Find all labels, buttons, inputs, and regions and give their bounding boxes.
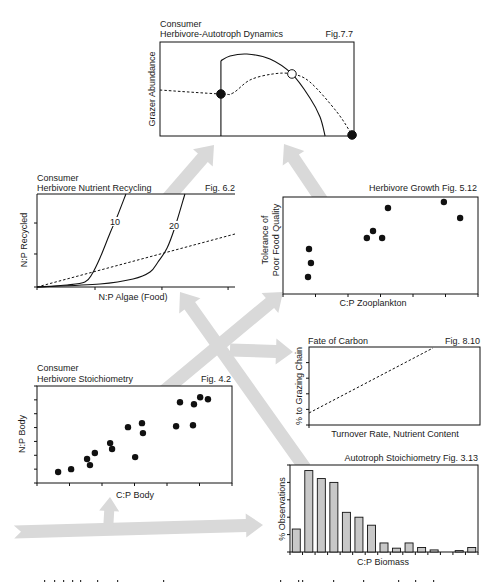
histogram-bar — [330, 482, 338, 552]
histogram-bar — [430, 550, 438, 552]
curve-label-10: 10 — [110, 217, 120, 227]
panel-recycling: Consumer Herbivore Nutrient Recycling Fi… — [19, 173, 235, 302]
panel-recycling-title-line2: Herbivore Nutrient Recycling — [37, 183, 152, 193]
histogram-bar — [468, 547, 476, 552]
panel-recycling-xlabel: N:P Algae (Food) — [99, 292, 168, 302]
panel-recycling-plot-background — [37, 194, 235, 287]
histogram-bar — [418, 547, 426, 552]
panel-carbon: Fate of Carbon Fig. 8.10 % to Grazing Ch… — [294, 336, 480, 439]
arrow-growth-to-dynamics — [283, 144, 329, 206]
panel-dynamics-plot-frame — [160, 42, 354, 136]
data-point — [132, 454, 138, 460]
curve-label-20: 20 — [169, 221, 179, 231]
panel-growth-title: Herbivore Growth Fig. 5.12 — [369, 183, 477, 193]
data-point — [140, 430, 146, 436]
data-point — [177, 399, 183, 405]
data-point — [308, 260, 314, 266]
data-point — [87, 462, 93, 468]
data-point — [370, 228, 376, 234]
data-point — [92, 450, 98, 456]
panel-histogram-xlabel: C:P Biomass — [357, 557, 409, 567]
data-point — [306, 246, 312, 252]
histogram-bar — [393, 548, 401, 552]
panel-stoichiometry-xlabel: C:P Body — [116, 490, 154, 500]
panel-stoichiometry-ylabel: N:P Body — [17, 415, 27, 453]
data-point — [109, 446, 115, 452]
panel-dynamics-title-line2: Herbivore-Autotroph Dynamics — [160, 29, 284, 39]
histogram-bar — [455, 551, 463, 552]
panel-recycling-fig-label: Fig. 6.2 — [205, 183, 235, 193]
histogram-bar — [305, 471, 313, 552]
data-point — [197, 394, 203, 400]
histogram-bar — [292, 529, 300, 552]
panel-growth-ylabel-line2: Poor Food Quality — [271, 203, 281, 276]
data-point — [379, 235, 385, 241]
filled-equilibrium-marker — [348, 131, 357, 140]
histogram-bar — [355, 517, 363, 552]
panel-stoichiometry-plot-frame — [37, 386, 232, 483]
data-point — [125, 424, 131, 430]
panel-carbon-xlabel: Turnover Rate, Nutrient Content — [331, 429, 459, 439]
data-point — [385, 205, 391, 211]
data-point — [457, 215, 463, 221]
data-point — [441, 199, 447, 205]
histogram-bar — [405, 543, 413, 552]
panel-growth-plot-frame — [283, 197, 478, 294]
panel-recycling-title-line1: Consumer — [37, 173, 79, 183]
histogram-bar — [317, 479, 325, 552]
panel-stoichiometry-title-line2: Herbivore Stoichiometry — [37, 374, 134, 384]
data-point — [191, 401, 197, 407]
open-equilibrium-marker — [288, 70, 297, 79]
panel-histogram-title: Autotroph Stoichiometry Fig. 3.13 — [344, 453, 478, 463]
panel-carbon-fig-label: Fig. 8.10 — [445, 336, 480, 346]
data-point — [190, 422, 196, 428]
panel-dynamics-ylabel: Grazer Abundance — [147, 51, 157, 126]
panel-dynamics-fig-label: Fig.7.7 — [325, 29, 353, 39]
panel-growth: Herbivore Growth Fig. 5.12 Tolerance of … — [260, 183, 478, 308]
data-point — [173, 423, 179, 429]
panel-stoichiometry-title-line1: Consumer — [37, 363, 79, 373]
panel-stoichiometry: Consumer Herbivore Stoichiometry Fig. 4.… — [17, 363, 232, 500]
data-point — [84, 456, 90, 462]
panel-carbon-plot-frame — [309, 347, 480, 425]
filled-equilibrium-marker — [217, 90, 226, 99]
data-point — [107, 440, 113, 446]
arrow-to-fate-of-carbon — [230, 339, 293, 365]
data-point — [205, 396, 211, 402]
panel-growth-xlabel: C:P Zooplankton — [340, 298, 407, 308]
panel-histogram: Autotroph Stoichiometry Fig. 3.13 % Obse… — [277, 453, 478, 567]
panel-dynamics-title-line1: Consumer — [160, 19, 202, 29]
panel-recycling-ylabel: N:P Recycled — [19, 213, 29, 267]
histogram-bar — [342, 512, 350, 552]
stoichiometry-concept-diagram: Consumer Herbivore-Autotroph Dynamics Fi… — [0, 0, 501, 582]
panel-stoichiometry-fig-label: Fig. 4.2 — [201, 374, 231, 384]
histogram-bar — [367, 525, 375, 552]
data-point — [364, 235, 370, 241]
arrow-bottom-to-histogram — [14, 514, 263, 539]
data-point — [68, 466, 74, 472]
data-point — [305, 274, 311, 280]
histogram-bar — [380, 543, 388, 552]
data-point — [139, 420, 145, 426]
data-point — [55, 469, 61, 475]
panel-growth-ylabel-line1: Tolerance of — [260, 215, 270, 265]
panel-carbon-ylabel: % to Grazing Chain — [294, 347, 304, 425]
panel-carbon-title: Fate of Carbon — [308, 336, 368, 346]
panel-histogram-ylabel: % Observations — [277, 477, 287, 541]
panel-dynamics: Consumer Herbivore-Autotroph Dynamics Fi… — [147, 19, 356, 139]
